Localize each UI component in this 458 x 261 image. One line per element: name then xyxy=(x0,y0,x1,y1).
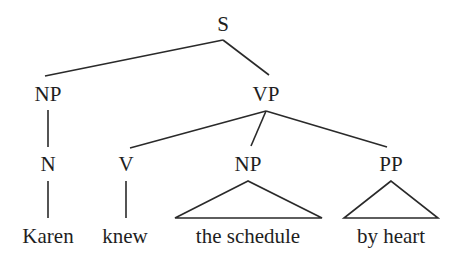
edge-vp-v xyxy=(130,111,266,148)
tree-edges xyxy=(0,0,458,261)
word-karen: Karen xyxy=(22,226,73,247)
word-knew: knew xyxy=(102,226,148,247)
node-s: S xyxy=(217,14,229,35)
edge-vp-pp xyxy=(266,111,387,147)
node-n: N xyxy=(40,154,55,175)
node-v: V xyxy=(118,154,133,175)
node-np-subject: NP xyxy=(35,84,62,105)
node-pp: PP xyxy=(379,154,402,175)
edge-s-vp xyxy=(223,40,269,75)
word-the-schedule: the schedule xyxy=(196,226,300,247)
triangle-np-object xyxy=(175,181,322,218)
word-by-heart: by heart xyxy=(357,226,425,247)
node-vp: VP xyxy=(253,84,280,105)
edge-s-np xyxy=(45,40,223,76)
node-np-object: NP xyxy=(235,154,262,175)
edge-vp-np xyxy=(251,111,266,146)
triangle-pp xyxy=(344,181,438,218)
syntax-tree: S NP VP N V NP PP Karen knew the schedul… xyxy=(0,0,458,261)
